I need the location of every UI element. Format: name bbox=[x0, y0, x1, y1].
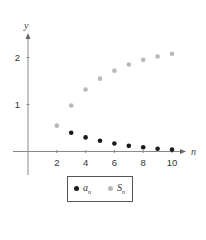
x-tick-label: 10 bbox=[167, 157, 178, 168]
legend-label: an bbox=[83, 182, 91, 195]
legend-item-s-n: Sn bbox=[108, 182, 125, 195]
data-point bbox=[170, 147, 175, 152]
data-point bbox=[155, 54, 160, 59]
data-point bbox=[83, 135, 88, 140]
y-axis-label: y bbox=[23, 20, 29, 31]
dot-icon bbox=[74, 186, 79, 191]
data-point bbox=[69, 103, 74, 108]
x-tick-label: 2 bbox=[54, 157, 59, 168]
data-point bbox=[83, 87, 88, 92]
data-point bbox=[98, 76, 103, 81]
x-axis-arrow-icon bbox=[180, 149, 186, 154]
y-tick-label: 2 bbox=[15, 52, 20, 63]
x-tick-label: 4 bbox=[83, 157, 88, 168]
data-point bbox=[55, 123, 60, 128]
axes bbox=[13, 33, 186, 175]
data-point bbox=[170, 51, 175, 56]
dot-icon bbox=[108, 186, 113, 191]
data-point bbox=[98, 138, 103, 143]
data-points bbox=[55, 51, 175, 151]
data-point bbox=[69, 130, 74, 135]
ticks: 24681012 bbox=[15, 52, 178, 168]
data-point bbox=[155, 146, 160, 151]
legend-item-a-n: an bbox=[74, 182, 91, 195]
x-tick-label: 8 bbox=[141, 157, 146, 168]
data-point bbox=[141, 145, 146, 150]
data-point bbox=[112, 141, 117, 146]
legend: an Sn bbox=[67, 176, 133, 202]
y-axis-arrow-icon bbox=[26, 33, 31, 39]
y-tick-label: 1 bbox=[15, 99, 20, 110]
data-point bbox=[127, 62, 132, 67]
series-a-n bbox=[69, 130, 174, 152]
legend-label: Sn bbox=[117, 182, 125, 195]
data-point bbox=[141, 58, 146, 63]
series-s-n bbox=[55, 51, 175, 128]
x-axis-label: n bbox=[191, 146, 196, 157]
data-point bbox=[112, 68, 117, 73]
data-point bbox=[127, 144, 132, 149]
x-tick-label: 6 bbox=[112, 157, 117, 168]
